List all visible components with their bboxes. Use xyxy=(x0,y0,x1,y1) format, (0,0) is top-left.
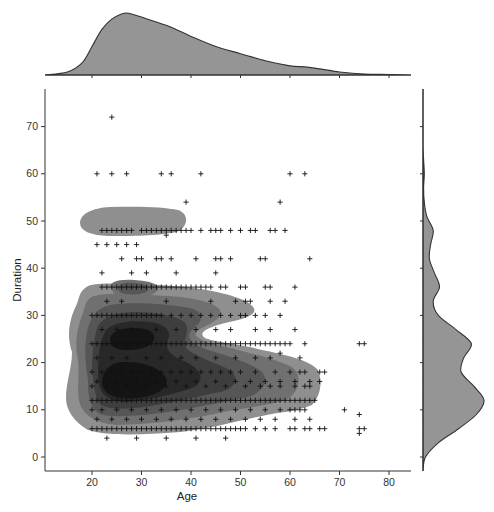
scatter-point xyxy=(198,228,203,233)
scatter-point xyxy=(357,412,362,417)
scatter-point xyxy=(223,426,228,431)
x-tick-label: 60 xyxy=(284,476,296,488)
marginal-y-curve xyxy=(423,89,484,471)
scatter-point xyxy=(263,284,268,289)
scatter-point xyxy=(238,228,243,233)
y-axis-label: Duration xyxy=(11,258,23,301)
y-axis: 010203040506070 Duration xyxy=(11,89,45,471)
scatter-point xyxy=(357,341,362,346)
scatter-point xyxy=(357,431,362,436)
scatter-point xyxy=(139,256,144,261)
scatter-point xyxy=(268,299,273,304)
scatter-point xyxy=(253,327,258,332)
scatter-point xyxy=(287,341,292,346)
kde-level-1-top xyxy=(80,207,186,236)
scatter-point xyxy=(268,228,273,233)
scatter-point xyxy=(119,256,124,261)
scatter-point xyxy=(183,228,188,233)
marginal-y-density xyxy=(423,89,484,471)
x-tick-label: 80 xyxy=(383,476,395,488)
scatter-point xyxy=(164,436,169,441)
scatter-point xyxy=(213,228,218,233)
scatter-point xyxy=(258,256,263,261)
scatter-point xyxy=(268,341,273,346)
y-tick-label: 0 xyxy=(32,451,38,463)
scatter-point xyxy=(228,228,233,233)
scatter-point xyxy=(129,270,134,275)
scatter-point xyxy=(223,284,228,289)
scatter-point xyxy=(104,242,109,247)
scatter-point xyxy=(287,426,292,431)
scatter-point xyxy=(273,417,278,422)
joint-plot-area xyxy=(66,115,367,441)
scatter-point xyxy=(238,426,243,431)
scatter-point xyxy=(213,426,218,431)
scatter-point xyxy=(104,436,109,441)
scatter-point xyxy=(228,426,233,431)
scatter-point xyxy=(322,426,327,431)
x-tick-label: 50 xyxy=(235,476,247,488)
scatter-point xyxy=(144,270,149,275)
scatter-point xyxy=(248,228,253,233)
scatter-point xyxy=(263,426,268,431)
scatter-point xyxy=(342,407,347,412)
scatter-point xyxy=(124,242,129,247)
scatter-point xyxy=(213,270,218,275)
scatter-point xyxy=(253,313,258,318)
y-tick-label: 10 xyxy=(26,403,38,415)
scatter-point xyxy=(278,200,283,205)
scatter-point xyxy=(243,426,248,431)
scatter-point xyxy=(228,256,233,261)
y-tick-label: 30 xyxy=(26,309,38,321)
x-ticks: 20304050607080 xyxy=(86,471,395,488)
scatter-point xyxy=(188,228,193,233)
scatter-point xyxy=(174,270,179,275)
scatter-point xyxy=(253,228,258,233)
scatter-point xyxy=(228,327,233,332)
scatter-point xyxy=(292,284,297,289)
joint-plot: 010203040506070 Duration 20304050607080 … xyxy=(0,0,494,512)
y-tick-label: 50 xyxy=(26,215,38,227)
scatter-point xyxy=(263,313,268,318)
scatter-point xyxy=(258,341,263,346)
scatter-point xyxy=(307,256,312,261)
scatter-point xyxy=(159,171,164,176)
scatter-point xyxy=(273,341,278,346)
scatter-point xyxy=(307,417,312,422)
scatter-point xyxy=(263,341,268,346)
scatter-point xyxy=(268,327,273,332)
scatter-point xyxy=(357,426,362,431)
scatter-point xyxy=(208,228,213,233)
scatter-point xyxy=(203,284,208,289)
y-tick-label: 60 xyxy=(26,167,38,179)
scatter-point xyxy=(218,284,223,289)
y-tick-label: 40 xyxy=(26,262,38,274)
scatter-point xyxy=(154,256,159,261)
scatter-point xyxy=(253,341,258,346)
scatter-point xyxy=(183,200,188,205)
scatter-point xyxy=(282,341,287,346)
scatter-point xyxy=(292,327,297,332)
scatter-point xyxy=(134,436,139,441)
scatter-point xyxy=(218,426,223,431)
scatter-point xyxy=(302,171,307,176)
scatter-point xyxy=(292,426,297,431)
scatter-point xyxy=(159,256,164,261)
scatter-point xyxy=(243,284,248,289)
scatter-point xyxy=(213,256,218,261)
scatter-point xyxy=(362,341,367,346)
scatter-point xyxy=(198,171,203,176)
scatter-point xyxy=(273,426,278,431)
scatter-point xyxy=(238,284,243,289)
scatter-point xyxy=(169,171,174,176)
scatter-point xyxy=(258,417,263,422)
scatter-point xyxy=(253,426,258,431)
scatter-point xyxy=(213,327,218,332)
scatter-point xyxy=(362,426,367,431)
marginal-x-density xyxy=(45,13,411,75)
marginal-x-curve xyxy=(45,13,411,75)
scatter-point xyxy=(193,436,198,441)
scatter-point xyxy=(287,171,292,176)
scatter-point xyxy=(99,270,104,275)
x-axis: 20304050607080 Age xyxy=(45,471,411,502)
